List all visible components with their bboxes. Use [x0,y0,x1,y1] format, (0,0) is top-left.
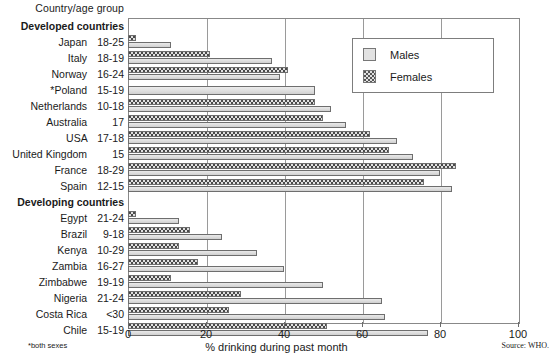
bar-group [128,306,519,322]
bar-females [128,291,241,297]
bar-both-sexes [128,86,315,95]
tick-label-0: 0 [108,328,148,340]
bar-group [128,114,519,130]
row-country: Egypt [60,212,90,224]
chart-row: United Kingdom 15 [0,146,553,162]
bar-group [128,258,519,274]
bar-group [128,146,519,162]
tick-label-100: 100 [498,328,538,340]
bar-females [128,227,190,233]
chart-row: USA 17-18 [0,130,553,146]
row-age-group: 18-25 [90,34,124,50]
chart-row: Australia 17 [0,114,553,130]
bar-males [128,234,222,240]
row-age-group: 17 [90,114,124,130]
row-country: Chile [63,324,90,336]
bar-males [128,138,397,144]
row-label-netherlands: Netherlands 10-18 [0,98,124,114]
bar-group [128,178,519,194]
row-age-group: 10-29 [90,242,124,258]
row-age-group: <30 [90,306,124,322]
row-country: Netherlands [30,100,90,112]
row-age-group: 21-24 [90,290,124,306]
tick-60 [362,322,363,327]
bar-females [128,51,210,57]
bar-females [128,259,198,265]
chart-container: Country/age group Developed countriesJap… [0,0,553,359]
row-country: United Kingdom [12,148,90,160]
bar-males [128,170,440,176]
bar-group [128,226,519,242]
row-label-egypt: Egypt 21-24 [0,210,124,226]
females-swatch-icon [363,70,376,83]
row-label-kenya: Kenya 10-29 [0,242,124,258]
row-country: Italy [68,52,90,64]
chart-row: Zambia 16-27 [0,258,553,274]
row-country: Zimbabwe [39,276,90,288]
row-label-norway: Norway 16-24 [0,66,124,82]
bar-females [128,211,136,217]
bar-males [128,218,179,224]
row-age-group: 17-18 [90,130,124,146]
bar-males [128,154,413,160]
bar-females [128,179,424,185]
row-age-group: 21-24 [90,210,124,226]
bar-males [128,42,171,48]
bar-females [128,131,370,137]
bar-males [128,58,272,64]
tick-80 [440,322,441,327]
row-country: Brazil [61,228,90,240]
row-label-poland: *Poland 15-19 [0,82,124,98]
row-age-group: 15 [90,146,124,162]
row-age-group: 16-27 [90,258,124,274]
chart-row: Brazil 9-18 [0,226,553,242]
row-country: Norway [51,68,90,80]
tick-100 [518,322,519,327]
legend-item-females: Females [363,68,432,85]
males-swatch-icon [363,48,376,61]
tick-0 [128,322,129,327]
bar-females [128,115,323,121]
group-row: Developing countries [0,194,553,210]
row-label-usa: USA 17-18 [0,130,124,146]
row-label-australia: Australia 17 [0,114,124,130]
row-label-italy: Italy 18-19 [0,50,124,66]
bar-group [128,290,519,306]
bar-group [128,130,519,146]
row-country: Zambia [52,260,90,272]
bar-males [128,186,452,192]
chart-row: Spain 12-15 [0,178,553,194]
row-country: *Poland [50,84,90,96]
chart-row: Zimbabwe 19-19 [0,274,553,290]
bar-group [128,274,519,290]
row-age-group: 10-18 [90,98,124,114]
row-label-brazil: Brazil 9-18 [0,226,124,242]
row-age-group: 16-24 [90,66,124,82]
bar-females [128,147,389,153]
row-age-group: 18-29 [90,162,124,178]
bar-females [128,99,315,105]
tick-40 [284,322,285,327]
bar-females [128,35,136,41]
chart-row: Netherlands 10-18 [0,98,553,114]
chart-row: Egypt 21-24 [0,210,553,226]
x-axis-title: % drinking during past month [0,341,553,353]
tick-label-80: 80 [420,328,460,340]
row-country: Japan [58,36,90,48]
bar-males [128,250,257,256]
bar-males [128,298,382,304]
row-label-nigeria: Nigeria 21-24 [0,290,124,306]
legend-label-females: Females [390,71,432,83]
row-label-chile: Chile 15-19 [0,322,124,338]
row-country: Australia [46,116,90,128]
group-label: Developing countries [0,194,124,210]
bar-males [128,266,284,272]
chart-row: Costa Rica <30 [0,306,553,322]
bar-group [128,210,519,226]
row-country: Nigeria [54,292,90,304]
row-age-group: 12-15 [90,178,124,194]
footnote: *both sexes [28,341,67,350]
row-country: Costa Rica [36,308,90,320]
row-age-group: 18-19 [90,50,124,66]
tick-label-20: 20 [186,328,226,340]
